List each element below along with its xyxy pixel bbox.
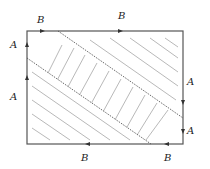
label-bottom-left-b: B bbox=[80, 152, 88, 163]
upper-dotted-line bbox=[58, 31, 183, 118]
hatch-bottom-left bbox=[32, 72, 130, 140]
label-top-right-b: B bbox=[117, 10, 125, 21]
arrow-right-icon bbox=[118, 29, 123, 33]
identification-diagram: B B A A A A B B bbox=[0, 0, 210, 169]
arrow-left-icon bbox=[85, 142, 90, 146]
arrow-right-icon bbox=[40, 29, 45, 33]
label-right-lower-a: A bbox=[186, 125, 194, 136]
label-left-lower-a: A bbox=[9, 91, 17, 102]
arrow-down-icon bbox=[181, 129, 185, 134]
arrow-down-icon bbox=[181, 100, 185, 105]
lower-dotted-line bbox=[27, 58, 151, 144]
label-top-left-b: B bbox=[36, 14, 44, 25]
arrow-up-icon bbox=[25, 42, 29, 47]
label-bottom-right-b: B bbox=[163, 152, 171, 163]
arrow-left-icon bbox=[164, 142, 169, 146]
arrow-up-icon bbox=[25, 75, 29, 80]
hatch-top-right bbox=[90, 38, 178, 100]
label-right-upper-a: A bbox=[186, 76, 194, 87]
label-left-upper-a: A bbox=[9, 39, 17, 50]
